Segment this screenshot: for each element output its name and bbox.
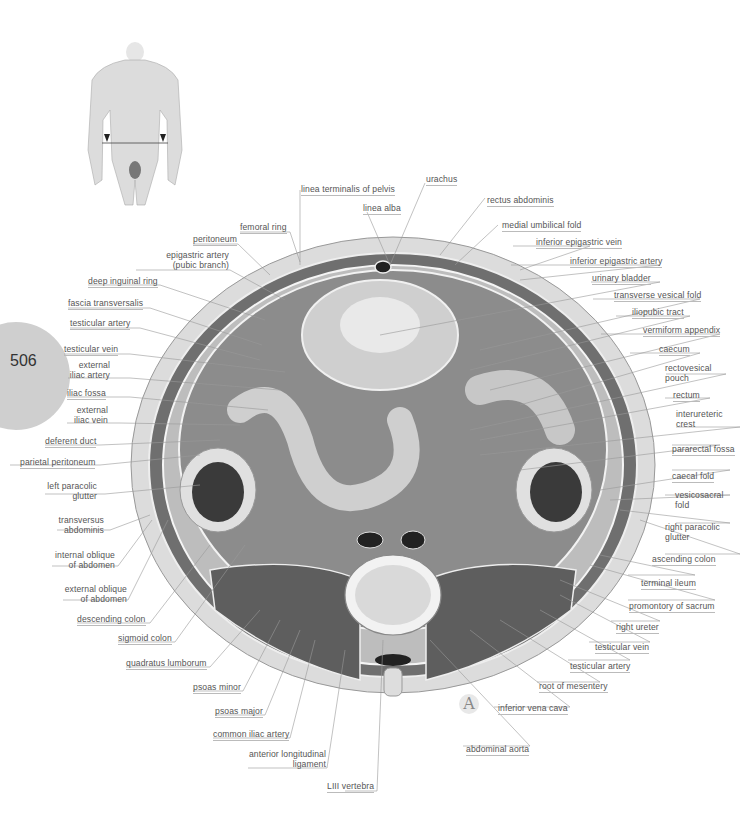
label-line-1: epigastric artery (166, 250, 229, 260)
label-external-iliac-artery: externaliliac artery (60, 360, 110, 380)
section-arrow-right-icon (160, 134, 166, 142)
label-external-oblique: external obliqueof abdomen (55, 584, 127, 604)
label-testicular-vein-left: testicular vein (64, 344, 118, 356)
label-line-1: right paracolic (665, 522, 720, 532)
label-line-2: iliac artery (70, 370, 110, 380)
label-promontory-of-sacrum: promontory of sacrum (629, 601, 715, 613)
label-external-iliac-vein: externaliliac vein (55, 405, 108, 425)
label-vesicosacral-fold: vesicosacralfold (675, 490, 723, 510)
label-line-1: anterior longitudinal (249, 749, 326, 759)
label-line-1: external (77, 405, 108, 415)
label-rectus-abdominis: rectus abdominis (487, 195, 554, 207)
label-right-paracolic-glutter: right paracolicglutter (665, 522, 720, 542)
label-internal-oblique: internal obliqueof abdomen (45, 550, 115, 570)
label-line-2: (pubic branch) (173, 260, 229, 270)
label-urinary-bladder: urinary bladder (592, 273, 651, 285)
plate-letter: A (459, 694, 479, 714)
label-peritoneum: peritoneum (193, 234, 237, 246)
label-inferior-vena-cava: inferior vena cava (498, 703, 568, 715)
label-deferent-duct: deferent duct (45, 436, 96, 448)
label-iliac-fossa: iliac fossa (67, 388, 106, 400)
label-deep-inguinal-ring: deep inguinal ring (88, 276, 158, 288)
label-psoas-major: psoas major (215, 706, 263, 718)
label-parietal-peritoneum: parietal peritoneum (20, 457, 95, 469)
label-iliopubic-tract: iliopubic tract (632, 307, 684, 319)
label-caecum: caecum (659, 344, 690, 356)
label-common-iliac-artery: common iliac artery (213, 729, 289, 741)
label-testicular-vein-right: testicular vein (595, 642, 649, 654)
label-line-2: ligament (293, 759, 326, 769)
label-line-1: internal oblique (55, 550, 115, 560)
label-line-1: rectovesical (665, 363, 712, 373)
label-linea-terminalis: linea terminalis of pelvis (301, 184, 395, 196)
label-vermiform-appendix: vermiform appendix (643, 325, 720, 337)
label-interureteric-crest: interuretericcrest (676, 409, 723, 429)
anatomy-illustration (0, 0, 751, 831)
label-line-1: external oblique (65, 584, 127, 594)
label-transversus-abdominis: transversusabdominis (40, 515, 104, 535)
label-rectum: rectum (673, 390, 700, 402)
label-line-1: interureteric (676, 409, 723, 419)
label-line-2: crest (676, 419, 695, 429)
label-ascending-colon: ascending colon (652, 554, 716, 566)
label-terminal-ileum: terminal ileum (641, 578, 696, 590)
label-right-ureter: right ureter (616, 622, 659, 634)
label-testicular-artery-left: testicular artery (70, 318, 130, 330)
label-anterior-longitudinal-ligament: anterior longitudinalligament (240, 749, 326, 769)
label-quadratus-lumborum: quadratus lumborum (126, 658, 207, 670)
label-transverse-vesical-fold: transverse vesical fold (614, 290, 701, 302)
label-caecal-fold: caecal fold (672, 471, 714, 483)
label-inferior-epigastric-vein: inferior epigastric vein (536, 237, 622, 249)
label-line-2: glutter (665, 532, 690, 542)
label-line-2: pouch (665, 373, 689, 383)
label-root-of-mesentery: root of mesentery (539, 681, 608, 693)
label-liii-vertebra: LIII vertebra (327, 781, 374, 793)
label-line-1: transversus (58, 515, 104, 525)
label-line-2: iliac vein (74, 415, 108, 425)
label-epigastric-artery: epigastric artery(pubic branch) (134, 250, 229, 270)
label-line-2: fold (675, 500, 689, 510)
label-pararectal-fossa: pararectal fossa (672, 444, 735, 456)
label-line-1: left paracolic (47, 481, 97, 491)
label-line-2: glutter (72, 491, 97, 501)
label-left-paracolic-glutter: left paracolicglutter (30, 481, 97, 501)
label-urachus: urachus (426, 174, 457, 186)
section-arrow-left-icon (104, 134, 110, 142)
label-inferior-epigastric-artery: inferior epigastric artery (570, 256, 662, 268)
label-line-2: of abdomen (69, 560, 115, 570)
label-linea-alba: linea alba (363, 203, 401, 215)
label-testicular-artery-right: testicular artery (570, 661, 630, 673)
orientation-figure (88, 42, 182, 205)
label-femoral-ring: femoral ring (240, 222, 287, 234)
label-line-2: abdominis (64, 525, 104, 535)
label-medial-umbilical-fold: medial umbilical fold (502, 220, 581, 232)
label-line-1: external (79, 360, 110, 370)
label-abdominal-aorta: abdominal aorta (466, 744, 529, 756)
label-sigmoid-colon: sigmoid colon (118, 633, 172, 645)
label-psoas-minor: psoas minor (193, 682, 241, 694)
label-line-2: of abdomen (81, 594, 127, 604)
label-rectovesical-pouch: rectovesicalpouch (665, 363, 712, 383)
label-fascia-transversalis: fascia transversalis (68, 298, 143, 310)
label-line-1: vesicosacral (675, 490, 723, 500)
label-descending-colon: descending colon (77, 614, 146, 626)
